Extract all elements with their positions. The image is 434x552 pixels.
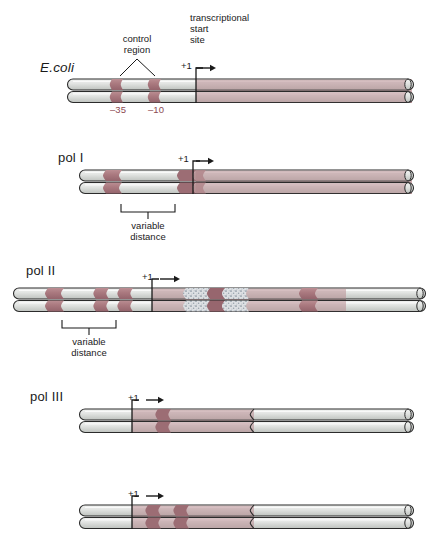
plus-one-label-pol2: +1 [142, 271, 153, 282]
strand-end-cap-lower [405, 92, 411, 103]
strand-end-cap-upper [417, 288, 423, 299]
plus-one-label-pol3b: +1 [128, 488, 139, 499]
row-label-pol-2: pol II [26, 263, 55, 278]
row-label-pol-1: pol I [58, 150, 84, 165]
plus-one-label-ecoli: +1 [181, 60, 192, 71]
strand-end-cap-upper [405, 79, 411, 90]
plus-one-label-pol3a: +1 [128, 392, 139, 403]
transcriptional-start-site-label: transcriptional start site [190, 12, 286, 46]
control-element-pol2-b [93, 288, 109, 312]
variable-distance-bracket-pol1 [121, 204, 175, 212]
strand-end-cap-lower [405, 422, 411, 433]
row-label-pol-3: pol III [30, 389, 63, 404]
row-ecoli [68, 59, 414, 103]
control-element-minus10 [148, 79, 161, 103]
variable-distance-label-pol2: variable distance [59, 336, 119, 358]
start-arrow-pol3a [146, 397, 164, 403]
promoter-diagram [0, 0, 434, 552]
start-arrow-pol3b [146, 493, 164, 499]
strand-end-cap-lower [405, 518, 411, 529]
row-pol-1 [80, 161, 414, 219]
variable-distance-label-pol1: variable distance [118, 220, 178, 242]
row-pol-3b [80, 496, 414, 529]
row-pol-3a [80, 400, 414, 433]
strand-end-cap-upper [405, 505, 411, 516]
control-region-label: control region [104, 33, 170, 55]
control-element-pol2-c [117, 288, 133, 312]
control-region-caret [120, 59, 155, 76]
control-element-minus35 [110, 79, 123, 103]
start-arrows [146, 65, 216, 499]
start-arrow-pol1 [196, 158, 214, 164]
box-label-minus-35: –35 [100, 104, 136, 115]
strand-end-cap-upper [405, 409, 411, 420]
row-pol-2 [14, 279, 426, 335]
strand-end-cap-lower [405, 183, 411, 194]
start-arrow-pol2 [160, 276, 180, 282]
strand-end-cap-upper [405, 170, 411, 181]
strand-end-cap-lower [417, 301, 423, 312]
box-label-minus-10: –10 [138, 104, 174, 115]
variable-distance-bracket-pol2 [62, 320, 116, 328]
row-label-ecoli: E.coli [40, 60, 74, 76]
control-element-pol1-upstream [103, 170, 122, 194]
start-arrow-ecoli [196, 65, 216, 71]
control-element-pol2-distal [45, 288, 64, 312]
plus-one-label-pol1: +1 [178, 153, 189, 164]
